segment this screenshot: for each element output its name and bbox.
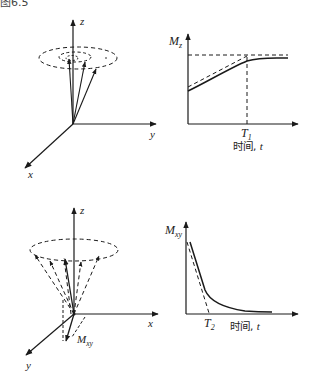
mxy-decay-curve	[190, 242, 272, 312]
mxy-vector-label: Mxy	[76, 333, 94, 348]
mxy-y-label: Mxy	[164, 223, 183, 239]
magnetization-vector-3	[73, 69, 96, 124]
mz-x-label: 时间, t	[233, 140, 264, 152]
mxy-tangent-dashed-line	[187, 242, 209, 313]
t2-tick-label: T2	[204, 316, 215, 332]
panel-top-right-mz-chart: Mz T1 时间, t	[168, 34, 298, 152]
y-axis-label: y	[25, 359, 31, 371]
y-axis	[26, 314, 74, 355]
x-axis-label: x	[27, 168, 33, 180]
x-axis-label: x	[147, 317, 153, 329]
y-axis-label: y	[149, 128, 155, 140]
spin-vector-dashed-1	[35, 255, 74, 314]
mz-recovery-curve	[188, 58, 288, 91]
mz-tangent-dashed-line	[188, 56, 247, 87]
figure: z y x Mz T1 时间, t z x y Mxy	[0, 0, 320, 373]
z-axis-label: z	[79, 204, 85, 216]
z-axis-label: z	[79, 15, 85, 27]
x-axis	[25, 124, 73, 168]
mxy-x-label: 时间, t	[230, 320, 261, 332]
inner-precession-ellipse	[59, 52, 91, 62]
panel-bottom-right-mxy-chart: Mxy T2 时间, t	[164, 222, 298, 332]
mz-y-label: Mz	[168, 34, 183, 50]
innermost-precession-ellipse	[66, 56, 78, 61]
magnetization-vector-2	[73, 62, 85, 124]
panel-bottom-left-vector-diagram: z x y Mxy	[25, 204, 158, 371]
panel-top-left-vector-diagram: z y x	[25, 15, 156, 180]
